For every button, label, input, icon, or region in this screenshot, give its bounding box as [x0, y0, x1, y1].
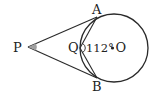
label-o: O [116, 40, 127, 55]
label-a: A [91, 2, 102, 17]
label-angle: 112° [86, 41, 114, 55]
geometry-diagram: P A B Q 112° O [0, 0, 156, 95]
label-b: B [92, 79, 102, 94]
angle-q-arc [83, 44, 86, 53]
label-p: P [13, 40, 22, 55]
label-q: Q [68, 40, 79, 55]
